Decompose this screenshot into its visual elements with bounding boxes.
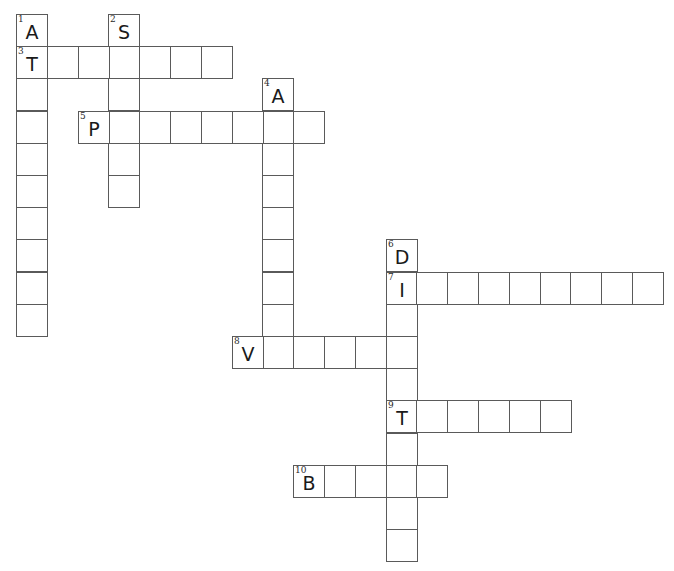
crossword-grid: 1A3T2S4A5P6D7I9T8V10B (0, 0, 674, 571)
crossword-cell[interactable] (324, 336, 356, 369)
crossword-cell[interactable] (262, 336, 294, 369)
crossword-cell[interactable] (108, 46, 140, 79)
crossword-cell[interactable]: 5P (78, 111, 110, 144)
crossword-cell[interactable] (201, 46, 233, 79)
crossword-cell[interactable] (170, 46, 202, 79)
crossword-cell[interactable] (601, 272, 633, 305)
crossword-cell[interactable] (262, 272, 294, 305)
given-letter: D (387, 244, 417, 270)
crossword-cell[interactable] (108, 111, 140, 144)
crossword-cell[interactable] (262, 175, 294, 208)
crossword-cell[interactable] (355, 336, 387, 369)
crossword-cell[interactable] (355, 465, 387, 498)
crossword-cell[interactable] (386, 529, 418, 562)
crossword-cell[interactable] (324, 465, 356, 498)
given-letter: T (17, 51, 47, 77)
given-letter: S (109, 19, 139, 45)
crossword-cell[interactable] (386, 465, 418, 498)
crossword-cell[interactable] (386, 336, 418, 369)
crossword-cell[interactable] (540, 400, 572, 433)
given-letter: A (263, 83, 293, 109)
crossword-cell[interactable]: 1A (16, 14, 48, 47)
given-letter: B (294, 470, 324, 496)
crossword-cell[interactable] (386, 304, 418, 337)
crossword-cell[interactable] (108, 175, 140, 208)
crossword-cell[interactable] (540, 272, 572, 305)
crossword-cell[interactable] (16, 175, 48, 208)
crossword-cell[interactable] (232, 111, 264, 144)
crossword-cell[interactable] (16, 207, 48, 240)
crossword-cell[interactable] (16, 143, 48, 176)
crossword-cell[interactable]: 2S (108, 14, 140, 47)
given-letter: I (387, 277, 417, 303)
given-letter: V (233, 341, 263, 367)
given-letter: P (79, 116, 109, 142)
crossword-cell[interactable] (293, 111, 325, 144)
crossword-cell[interactable] (139, 111, 171, 144)
crossword-cell[interactable]: 10B (293, 465, 325, 498)
crossword-cell[interactable] (108, 78, 140, 111)
crossword-cell[interactable] (478, 400, 510, 433)
crossword-cell[interactable] (262, 239, 294, 272)
crossword-cell[interactable] (16, 78, 48, 111)
crossword-cell[interactable] (386, 497, 418, 530)
crossword-cell[interactable] (262, 111, 294, 144)
crossword-cell[interactable] (108, 143, 140, 176)
crossword-cell[interactable] (78, 46, 110, 79)
crossword-cell[interactable] (509, 400, 541, 433)
crossword-cell[interactable] (47, 46, 79, 79)
crossword-cell[interactable] (139, 46, 171, 79)
crossword-cell[interactable] (262, 304, 294, 337)
crossword-cell[interactable] (262, 143, 294, 176)
crossword-cell[interactable] (201, 111, 233, 144)
crossword-cell[interactable]: 6D (386, 239, 418, 272)
crossword-cell[interactable] (170, 111, 202, 144)
crossword-cell[interactable]: 4A (262, 78, 294, 111)
crossword-cell[interactable] (16, 111, 48, 144)
crossword-cell[interactable]: 3T (16, 46, 48, 79)
given-letter: A (17, 19, 47, 45)
crossword-cell[interactable] (386, 368, 418, 401)
crossword-cell[interactable] (262, 207, 294, 240)
crossword-cell[interactable] (416, 272, 448, 305)
crossword-cell[interactable] (416, 465, 448, 498)
crossword-cell[interactable] (386, 433, 418, 466)
crossword-cell[interactable] (509, 272, 541, 305)
crossword-cell[interactable] (447, 400, 479, 433)
crossword-cell[interactable] (447, 272, 479, 305)
crossword-cell[interactable]: 8V (232, 336, 264, 369)
crossword-cell[interactable]: 7I (386, 272, 418, 305)
crossword-cell[interactable] (16, 272, 48, 305)
given-letter: T (387, 405, 417, 431)
crossword-cell[interactable] (478, 272, 510, 305)
crossword-cell[interactable] (16, 239, 48, 272)
crossword-cell[interactable]: 9T (386, 400, 418, 433)
crossword-cell[interactable] (293, 336, 325, 369)
crossword-cell[interactable] (570, 272, 602, 305)
crossword-cell[interactable] (416, 400, 448, 433)
crossword-cell[interactable] (16, 304, 48, 337)
crossword-cell[interactable] (632, 272, 664, 305)
